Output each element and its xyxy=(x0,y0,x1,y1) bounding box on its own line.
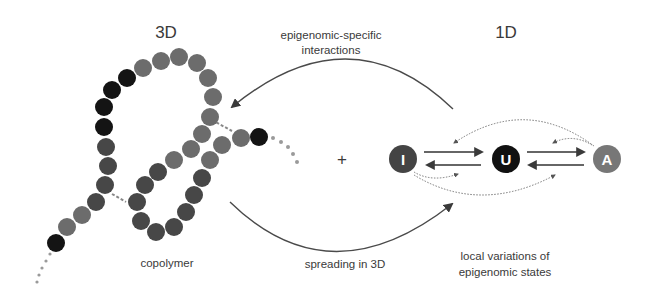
copolymer-beads xyxy=(47,48,268,252)
caption-line2: epigenomic states xyxy=(459,266,552,278)
state-active: A xyxy=(593,145,621,173)
state-unmarked: U xyxy=(492,145,520,173)
state-a-letter: A xyxy=(602,151,613,168)
polymer-tail-left xyxy=(35,252,51,283)
plus-sign: + xyxy=(337,150,347,169)
top-arrow-label-line1: epigenomic-specific xyxy=(281,29,382,41)
contact-dash-lower xyxy=(112,194,126,202)
spreading-label: spreading in 3D xyxy=(305,258,386,270)
state-i-letter: I xyxy=(401,151,405,168)
title-1d: 1D xyxy=(495,23,517,42)
caption-line1: local variations of xyxy=(461,250,551,262)
top-arrow-label-line2: interactions xyxy=(302,44,361,56)
state-u-letter: U xyxy=(501,151,512,168)
diagram-canvas: 3D 1D epigenomic-specific interactions s… xyxy=(0,0,651,301)
epigenomic-interactions-arrow xyxy=(232,59,453,109)
title-3d: 3D xyxy=(155,23,177,42)
state-inactive: I xyxy=(389,145,417,173)
spreading-arrow xyxy=(230,202,452,252)
polymer-tail-right xyxy=(271,136,299,164)
copolymer-label: copolymer xyxy=(140,257,193,269)
